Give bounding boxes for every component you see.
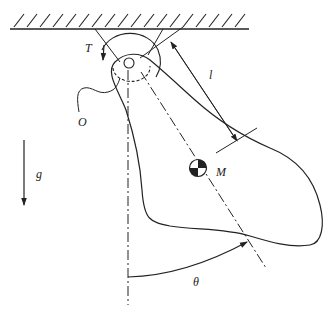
body-outline — [111, 54, 322, 246]
center-of-mass-icon — [190, 160, 207, 177]
torque-label: T — [85, 42, 92, 54]
origin-label: O — [78, 116, 87, 128]
support-struts — [95, 27, 183, 62]
gravity-label: g — [36, 168, 42, 180]
mass-label: M — [216, 166, 226, 178]
angle-arc — [128, 242, 247, 277]
length-label: l — [209, 69, 212, 81]
length-dimension — [171, 42, 257, 153]
angle-label: θ — [193, 276, 199, 288]
ceiling — [10, 14, 249, 29]
pendulum-diagram: T l O M g θ — [0, 0, 336, 319]
pivot-assembly — [102, 33, 160, 81]
diagram-svg — [0, 0, 336, 319]
pivot-pin — [124, 58, 134, 68]
